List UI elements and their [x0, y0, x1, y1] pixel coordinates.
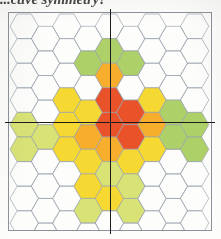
figure-page: ...ctive symmetry?: [0, 0, 221, 239]
page-heading-clip: ...ctive symmetry?: [0, 0, 221, 7]
page-heading: ...ctive symmetry?: [0, 0, 221, 7]
hex-grid: [8, 12, 212, 231]
hex-grid-svg: [8, 12, 212, 231]
hex-heatmap-figure: [8, 12, 212, 231]
